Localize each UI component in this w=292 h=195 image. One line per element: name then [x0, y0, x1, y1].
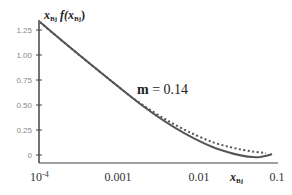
xtick-label: 0.1: [270, 170, 285, 184]
annotation: m = 0.14: [137, 82, 188, 97]
ytick-label: 1.00: [16, 51, 32, 60]
xtick-label: 0.001: [105, 170, 132, 184]
xtick-label: 0.01: [189, 170, 210, 184]
ytick-label: 0.75: [16, 76, 32, 85]
chart: 0 0.25 0.50 0.75 1.00 1.25 10-4 0.001 0.…: [0, 0, 292, 195]
ytick-label: 0: [28, 151, 33, 160]
y-axis-label: xBj f(xBj): [43, 8, 85, 23]
xtick-label: 10-4: [30, 170, 49, 184]
ytick-label: 0.50: [16, 101, 32, 110]
ytick-label: 1.25: [16, 26, 32, 35]
ytick-label: 0.25: [16, 126, 32, 135]
x-axis-label: xBj: [229, 170, 243, 185]
